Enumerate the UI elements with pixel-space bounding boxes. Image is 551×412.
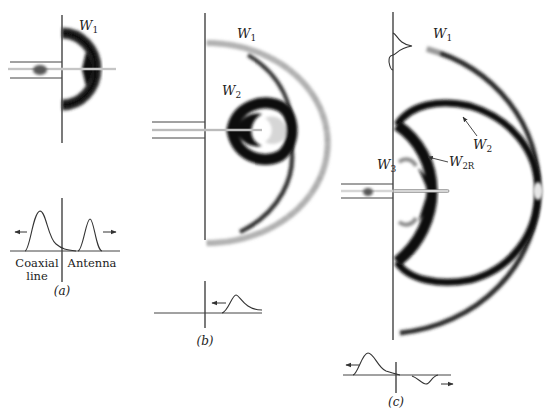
label-coaxial: Coaxial <box>15 256 59 270</box>
pulse-plot-c <box>343 353 453 393</box>
coax-pulse-blob <box>33 65 47 75</box>
wavefront-crossing <box>533 182 543 200</box>
caption-b: (b) <box>196 334 213 348</box>
coax-pulse-blob <box>363 188 373 196</box>
pulse-plot-b <box>154 281 262 328</box>
panel-b: W1 W2 (b) <box>152 13 328 348</box>
pulse-coaxial <box>25 211 76 251</box>
caption-c: (c) <box>388 395 404 409</box>
pulse-b <box>222 295 262 313</box>
figure-canvas: W1 Coaxial line Antenna (a) <box>0 0 551 412</box>
label-line: line <box>26 269 48 283</box>
label-w1: W1 <box>79 18 98 35</box>
wavefront-w2r <box>397 125 432 262</box>
label-w1: W1 <box>237 26 256 43</box>
pulse-c-positive <box>353 353 400 375</box>
panel-c: W1 W2 W2R W3 (c) <box>341 12 543 409</box>
pulse-plot-a: Coaxial line Antenna <box>10 198 120 283</box>
pulse-antenna <box>78 219 102 251</box>
label-antenna: Antenna <box>67 256 117 270</box>
label-w1: W1 <box>433 26 452 43</box>
pulse-c-negative <box>412 375 438 384</box>
leader-w2 <box>463 117 477 136</box>
panel-a: W1 Coaxial line Antenna (a) <box>8 15 120 298</box>
label-w2: W2 <box>222 83 241 100</box>
label-w2r: W2R <box>449 154 475 171</box>
caption-a: (a) <box>54 284 71 298</box>
label-w2: W2 <box>473 137 492 154</box>
